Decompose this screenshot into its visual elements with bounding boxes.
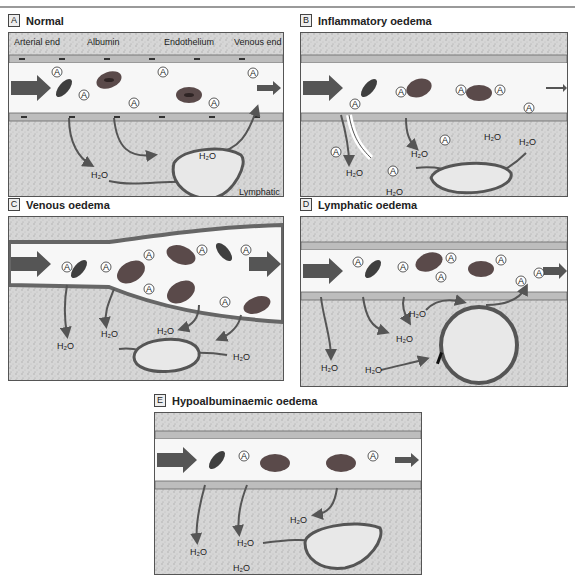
water-label: H₂O [386, 187, 403, 196]
red-blood-cell [260, 454, 290, 472]
water-label: H₂O [396, 334, 413, 344]
top-rule [0, 6, 575, 8]
water-label: H₂O [290, 515, 307, 525]
albumin-label: A [250, 68, 256, 78]
albumin-label: A [370, 451, 376, 461]
panel-venous-oedema: C Venous oedema A A A A A A A [8, 198, 284, 382]
albumin-label: A [146, 250, 152, 260]
albumin-label: A [458, 85, 464, 95]
albumin-label: A [497, 85, 503, 95]
albumin-label: A [199, 245, 205, 255]
panel-inflammatory-oedema: B Inflammatory oedema A A A A A A [300, 14, 568, 198]
albumin-label: A [352, 99, 358, 109]
albumin-label: A [526, 103, 532, 113]
panel-illustration: A A A A A A A A H₂O H₂O H₂O H₂O H₂O [300, 32, 568, 197]
panel-title-text: Venous oedema [26, 199, 110, 211]
albumin-label: A [498, 255, 504, 265]
panel-title: C Venous oedema [8, 198, 110, 211]
panel-hypoalbuminaemic-oedema: E Hypoalbuminaemic oedema A A [154, 394, 422, 576]
panel-normal: A Normal [8, 14, 284, 198]
arterial-end-label: Arterial end [14, 37, 60, 47]
albumin-label: A [222, 297, 228, 307]
endothelium-label: Endothelium [164, 37, 214, 47]
albumin-label: A [146, 284, 152, 294]
panel-letter: E [154, 394, 166, 407]
water-label: H₂O [101, 329, 118, 339]
albumin-label: A [355, 257, 361, 267]
water-label: H₂O [199, 151, 216, 161]
water-label: H₂O [233, 352, 250, 362]
albumin-label: A [398, 87, 404, 97]
albumin-label: A [160, 67, 166, 77]
panel-title: A Normal [8, 14, 64, 27]
panel-letter: A [8, 14, 20, 27]
albumin-label: A [131, 98, 137, 108]
venous-end-label: Venous end [234, 37, 282, 47]
albumin-label: A [438, 272, 444, 282]
panel-illustration: A A A A A A A H₂O H₂O H₂O H₂O [8, 216, 284, 381]
panel-lymphatic-oedema: D Lymphatic oedema A A A A A A A [300, 198, 568, 388]
panel-letter: B [300, 14, 312, 27]
red-blood-cell [466, 85, 492, 101]
panel-title-text: Lymphatic oedema [318, 199, 417, 211]
panel-letter: D [300, 198, 312, 211]
water-label: H₂O [411, 149, 428, 159]
lymphatic-vessel [431, 163, 511, 193]
albumin-label: A [211, 98, 217, 108]
water-label: H₂O [233, 563, 250, 573]
panel-illustration: A A A A A A Arterial end Albumin Endothe… [8, 32, 284, 197]
water-label: H₂O [409, 309, 426, 319]
albumin-label: A [243, 245, 249, 255]
red-blood-cell [176, 87, 202, 103]
panel-title: E Hypoalbuminaemic oedema [154, 394, 318, 407]
albumin-label: A [333, 147, 339, 157]
albumin-label: A [536, 268, 542, 278]
water-label: H₂O [321, 363, 338, 373]
distended-lymphatic-vessel [441, 307, 517, 383]
water-label: H₂O [484, 132, 501, 142]
water-label: H₂O [57, 341, 74, 351]
albumin-label: A [400, 262, 406, 272]
panel-title-text: Normal [26, 15, 64, 27]
water-label: H₂O [157, 326, 174, 336]
red-blood-cell [468, 261, 494, 277]
albumin-label: A [81, 90, 87, 100]
water-label: H₂O [365, 365, 382, 375]
lymphatic-label: Lymphatic [239, 187, 280, 196]
water-label: H₂O [237, 538, 254, 548]
albumin-label: A [442, 135, 448, 145]
albumin-label: A [241, 451, 247, 461]
water-label: H₂O [519, 137, 536, 147]
albumin-label-callout: Albumin [87, 37, 120, 47]
panel-illustration: A A H₂O H₂O H₂O H₂O [154, 412, 422, 575]
albumin-label: A [518, 276, 524, 286]
panel-illustration: A A A A A A A H₂O H₂O H₂O H₂O [300, 216, 568, 387]
panel-title: D Lymphatic oedema [300, 198, 417, 211]
panel-letter: C [8, 198, 20, 211]
albumin-label: A [390, 166, 396, 176]
water-label: H₂O [346, 168, 363, 178]
panel-title-text: Inflammatory oedema [318, 15, 432, 27]
water-label: H₂O [190, 547, 207, 557]
lymphatic-vessel [134, 339, 199, 371]
albumin-label: A [64, 262, 70, 272]
panel-title-text: Hypoalbuminaemic oedema [172, 395, 318, 407]
albumin-label: A [103, 262, 109, 272]
panel-title: B Inflammatory oedema [300, 14, 432, 27]
albumin-label: A [54, 67, 60, 77]
albumin-label: A [448, 253, 454, 263]
red-blood-cell [326, 454, 356, 472]
water-label: H₂O [91, 170, 108, 180]
